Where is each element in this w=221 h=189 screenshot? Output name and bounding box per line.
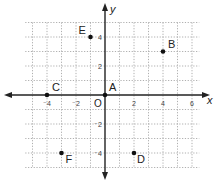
x-axis-left-arrow-icon	[4, 92, 12, 98]
x-tick-label: 2	[132, 100, 136, 107]
point-label-c: C	[52, 81, 60, 93]
axes	[4, 3, 210, 180]
coordinate-plane: ⁻4⁻224642⁻2⁻4 ABCDEF x y O	[0, 0, 221, 189]
point-label-a: A	[109, 81, 117, 93]
origin-label: O	[94, 98, 102, 109]
point-label-d: D	[137, 153, 145, 165]
point-label-e: E	[79, 24, 86, 36]
point-b	[161, 49, 166, 54]
y-axis-label: y	[109, 3, 117, 15]
point-label-f: F	[66, 153, 73, 165]
x-tick-label: ⁻2	[72, 100, 80, 107]
point-label-b: B	[168, 38, 175, 50]
x-tick-label: 6	[190, 100, 194, 107]
y-axis-down-arrow-icon	[102, 172, 108, 180]
x-tick-label: 4	[161, 100, 165, 107]
point-d	[132, 151, 137, 156]
point-e	[88, 35, 93, 40]
point-a	[103, 93, 108, 98]
point-f	[59, 151, 64, 156]
x-tick-label: ⁻4	[43, 100, 51, 107]
y-tick-label: 2	[98, 63, 102, 70]
point-c	[45, 93, 50, 98]
x-axis-label: x	[206, 94, 213, 106]
y-tick-label: ⁻4	[94, 150, 102, 157]
y-tick-label: ⁻2	[94, 121, 102, 128]
y-axis-up-arrow-icon	[102, 3, 108, 11]
y-tick-label: 4	[98, 34, 102, 41]
